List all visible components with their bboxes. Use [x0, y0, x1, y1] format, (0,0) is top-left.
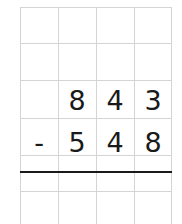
subtrahend-tens: 4 — [96, 128, 134, 158]
minuend-hundreds: 8 — [58, 86, 96, 116]
grid-line — [20, 118, 172, 119]
subtrahend-hundreds: 5 — [58, 128, 96, 158]
minuend-tens: 4 — [96, 86, 134, 116]
minuend-ones: 3 — [134, 86, 172, 116]
grid-line — [20, 80, 172, 81]
subtraction-grid: 8 4 3 - 5 4 8 — [20, 7, 172, 224]
minus-sign: - — [20, 128, 58, 158]
result-rule — [20, 171, 172, 173]
subtrahend-ones: 8 — [134, 128, 172, 158]
grid-line — [20, 191, 172, 192]
grid-line — [20, 7, 172, 8]
grid-line — [20, 43, 172, 44]
